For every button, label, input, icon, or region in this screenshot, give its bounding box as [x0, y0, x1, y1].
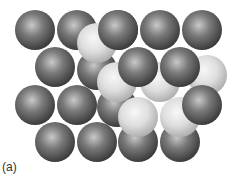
sphere-dark [182, 10, 222, 50]
sphere-dark [140, 10, 180, 50]
figure-label: (a) [2, 160, 17, 174]
sphere-dark [35, 122, 75, 162]
sphere-dark [35, 47, 75, 87]
sphere-dark [118, 47, 158, 87]
sphere-light [118, 97, 158, 137]
sphere-dark [15, 10, 55, 50]
sphere-dark [15, 85, 55, 125]
sphere-dark [182, 85, 222, 125]
sphere-packing-figure: (a) [0, 0, 236, 182]
sphere-dark [160, 47, 200, 87]
sphere-dark [98, 10, 138, 50]
sphere-dark [77, 122, 117, 162]
sphere-dark [57, 85, 97, 125]
sphere-diagram [0, 0, 236, 182]
